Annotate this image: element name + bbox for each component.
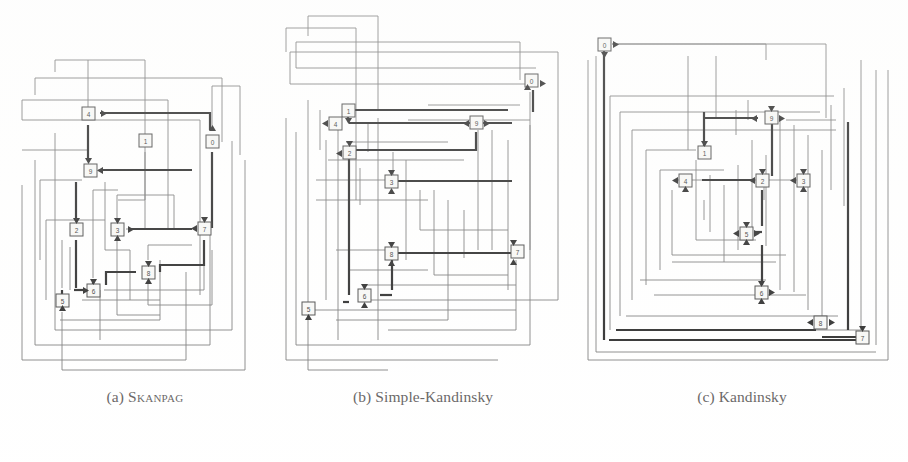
svg-text:7: 7 bbox=[861, 335, 865, 342]
graph-node[interactable]: 4 bbox=[329, 117, 342, 130]
graph-drawing-simple-kandinsky: 0 1 4 9 2 bbox=[268, 0, 578, 390]
graph-svg-b: 0 1 4 9 2 bbox=[268, 0, 578, 390]
graph-node[interactable]: 9 bbox=[765, 111, 778, 124]
svg-text:5: 5 bbox=[61, 298, 65, 305]
caption-name-a: Skanpag bbox=[128, 388, 184, 405]
graph-node[interactable]: 9 bbox=[470, 116, 483, 129]
graph-node[interactable]: 6 bbox=[358, 289, 371, 302]
nodes-a: 4 1 0 9 2 bbox=[56, 107, 219, 307]
svg-text:3: 3 bbox=[802, 178, 806, 185]
svg-text:0: 0 bbox=[211, 139, 215, 146]
svg-text:4: 4 bbox=[684, 178, 688, 185]
svg-text:3: 3 bbox=[390, 179, 394, 186]
svg-text:1: 1 bbox=[703, 150, 707, 157]
svg-text:5: 5 bbox=[745, 231, 749, 238]
graph-node[interactable]: 1 bbox=[139, 134, 152, 147]
svg-text:6: 6 bbox=[760, 290, 764, 297]
arrowheads-a bbox=[59, 110, 216, 311]
svg-text:4: 4 bbox=[87, 111, 91, 118]
nodes-c: 0 9 1 4 2 bbox=[598, 38, 869, 344]
graph-node[interactable]: 9 bbox=[84, 164, 97, 177]
caption-simple-kandinsky: (b) Simple-Kandinsky bbox=[268, 386, 578, 408]
graph-node[interactable]: 3 bbox=[111, 223, 124, 236]
graph-node[interactable]: 0 bbox=[598, 38, 611, 51]
svg-text:1: 1 bbox=[144, 138, 148, 145]
graph-node[interactable]: 3 bbox=[385, 175, 398, 188]
svg-text:2: 2 bbox=[348, 150, 352, 157]
graph-node[interactable]: 6 bbox=[755, 286, 768, 299]
graph-svg-c: 0 9 1 4 2 bbox=[576, 0, 908, 390]
graph-node[interactable]: 1 bbox=[698, 146, 711, 159]
svg-text:8: 8 bbox=[147, 270, 151, 277]
graph-node[interactable]: 7 bbox=[511, 245, 524, 258]
graph-node[interactable]: 2 bbox=[343, 146, 356, 159]
graph-node[interactable]: 2 bbox=[70, 223, 83, 236]
svg-text:6: 6 bbox=[363, 293, 367, 300]
caption-name-b: Simple-Kandinsky bbox=[375, 388, 493, 405]
graph-node[interactable]: 8 bbox=[814, 316, 827, 329]
caption-skanpag: (a) Skanpag bbox=[0, 386, 290, 408]
svg-text:7: 7 bbox=[203, 226, 207, 233]
graph-node[interactable]: 7 bbox=[856, 331, 869, 344]
svg-text:8: 8 bbox=[819, 320, 823, 327]
graph-node[interactable]: 2 bbox=[756, 174, 769, 187]
figure-root: 4 1 0 9 2 bbox=[0, 0, 908, 462]
graph-drawing-skanpag: 4 1 0 9 2 bbox=[0, 0, 290, 390]
caption-row: (a) Skanpag (b) Simple-Kandinsky (c) Kan… bbox=[0, 386, 908, 426]
svg-text:0: 0 bbox=[530, 78, 534, 85]
thin-edges-c bbox=[588, 44, 888, 360]
caption-kandinsky: (c) Kandinsky bbox=[576, 386, 908, 408]
graph-node[interactable]: 1 bbox=[342, 104, 355, 117]
graph-node[interactable]: 0 bbox=[206, 135, 219, 148]
svg-text:8: 8 bbox=[390, 251, 394, 258]
svg-text:9: 9 bbox=[89, 168, 93, 175]
svg-text:9: 9 bbox=[770, 115, 774, 122]
graph-node[interactable]: 3 bbox=[797, 174, 810, 187]
caption-tag-c: (c) bbox=[697, 388, 715, 405]
caption-name-c: Kandinsky bbox=[719, 388, 787, 405]
svg-text:7: 7 bbox=[516, 249, 520, 256]
svg-text:1: 1 bbox=[347, 108, 351, 115]
caption-tag-b: (b) bbox=[353, 388, 371, 405]
graph-node[interactable]: 8 bbox=[142, 266, 155, 279]
thick-edges-a bbox=[62, 113, 212, 296]
svg-text:3: 3 bbox=[116, 227, 120, 234]
thin-edges-b bbox=[286, 16, 558, 370]
svg-text:6: 6 bbox=[92, 288, 96, 295]
graph-node[interactable]: 5 bbox=[740, 227, 753, 240]
graph-node[interactable]: 4 bbox=[679, 174, 692, 187]
graph-svg-a: 4 1 0 9 2 bbox=[0, 0, 290, 390]
graph-node[interactable]: 8 bbox=[385, 247, 398, 260]
caption-tag-a: (a) bbox=[106, 388, 124, 405]
graph-drawing-kandinsky: 0 9 1 4 2 bbox=[576, 0, 908, 390]
svg-text:2: 2 bbox=[761, 178, 765, 185]
svg-text:5: 5 bbox=[307, 306, 311, 313]
svg-text:9: 9 bbox=[475, 120, 479, 127]
graph-node[interactable]: 4 bbox=[82, 107, 95, 120]
thick-edges-c bbox=[604, 51, 858, 340]
svg-text:0: 0 bbox=[603, 42, 607, 49]
svg-text:2: 2 bbox=[75, 227, 79, 234]
graph-node[interactable]: 7 bbox=[198, 222, 211, 235]
graph-node[interactable]: 5 bbox=[302, 302, 315, 315]
svg-text:4: 4 bbox=[334, 121, 338, 128]
